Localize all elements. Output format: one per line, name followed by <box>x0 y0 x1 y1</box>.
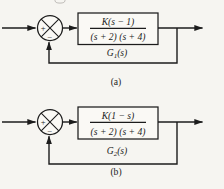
plus-sign: + <box>41 117 46 127</box>
block-diagram-figure: + − K(s − 1) (s + 2) (s + 4) G1(s) (a) <box>0 0 224 189</box>
block-denominator: (s + 2) (s + 4) <box>91 126 146 138</box>
block-gain-label: G2(s) <box>107 145 128 158</box>
block-numerator: K(1 − s) <box>101 110 135 122</box>
block-numerator: K(s − 1) <box>101 16 135 28</box>
diagram-b-canvas: + − K(1 − s) (s + 2) (s + 4) G2(s) (b) <box>0 94 224 189</box>
scan-artifact <box>55 0 65 3</box>
minus-sign: − <box>48 32 53 42</box>
block-denominator: (s + 2) (s + 4) <box>91 31 146 43</box>
diagram-b: + − K(1 − s) (s + 2) (s + 4) G2(s) (b) <box>0 94 224 189</box>
diagram-a-caption: (a) <box>111 76 122 88</box>
diagram-a: + − K(s − 1) (s + 2) (s + 4) G1(s) (a) <box>0 0 224 94</box>
diagram-b-caption: (b) <box>110 166 121 178</box>
block-gain-label: G1(s) <box>107 47 128 60</box>
diagram-a-canvas: + − K(s − 1) (s + 2) (s + 4) G1(s) (a) <box>0 0 224 94</box>
minus-sign: − <box>48 126 53 136</box>
plus-sign: + <box>41 23 46 33</box>
